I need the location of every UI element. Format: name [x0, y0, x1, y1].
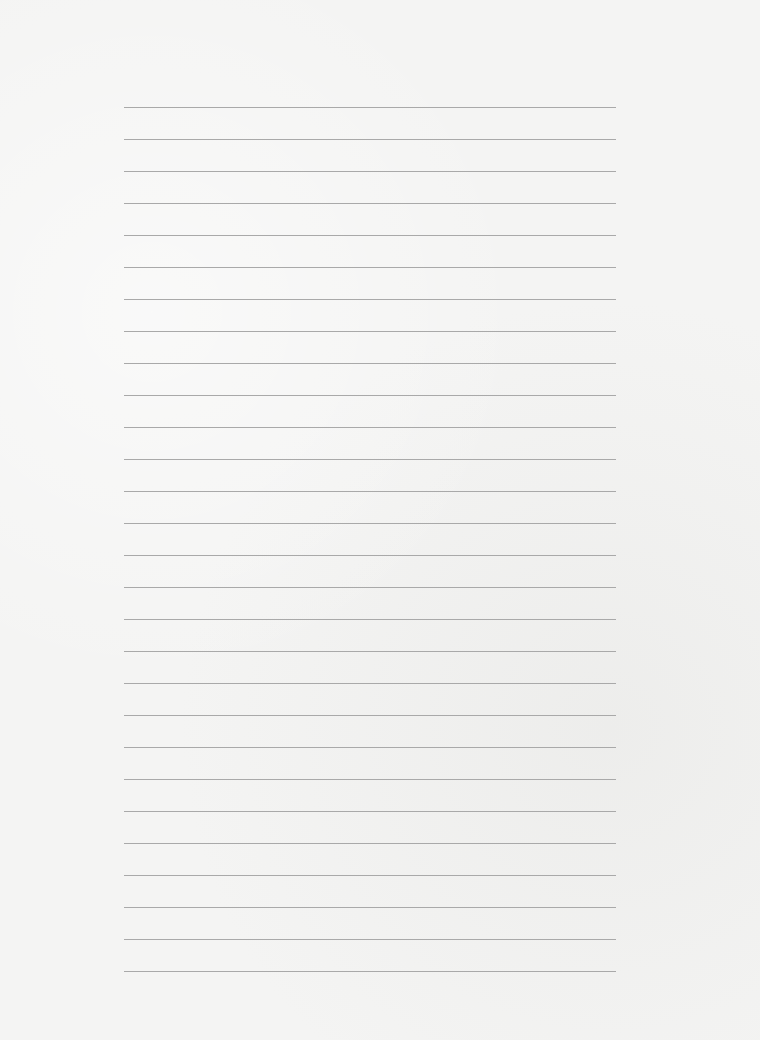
ruled-line	[124, 683, 616, 684]
ruled-line	[124, 331, 616, 332]
ruled-line	[124, 363, 616, 364]
ruled-line	[124, 395, 616, 396]
ruled-line	[124, 523, 616, 524]
ruled-line	[124, 971, 616, 972]
ruled-line	[124, 555, 616, 556]
ruled-line	[124, 139, 616, 140]
ruled-line	[124, 619, 616, 620]
lined-paper-sheet	[0, 0, 760, 1040]
ruled-line	[124, 203, 616, 204]
ruled-line	[124, 715, 616, 716]
ruled-line	[124, 843, 616, 844]
ruled-line	[124, 779, 616, 780]
ruled-line	[124, 107, 616, 108]
ruled-line	[124, 171, 616, 172]
ruled-line	[124, 875, 616, 876]
ruled-line	[124, 427, 616, 428]
ruled-line	[124, 491, 616, 492]
ruled-line	[124, 587, 616, 588]
ruled-line	[124, 651, 616, 652]
ruled-line	[124, 299, 616, 300]
ruled-line	[124, 907, 616, 908]
ruled-line	[124, 235, 616, 236]
ruled-line	[124, 811, 616, 812]
ruled-line	[124, 747, 616, 748]
ruled-line	[124, 459, 616, 460]
ruled-line	[124, 267, 616, 268]
ruled-line	[124, 939, 616, 940]
